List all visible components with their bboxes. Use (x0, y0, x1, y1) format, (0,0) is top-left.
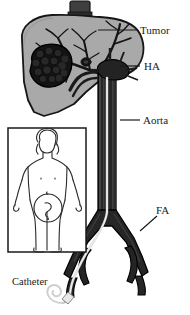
patient-inset (8, 128, 86, 252)
figure-canvas: Tumor HA Aorta FA Catheter (0, 0, 190, 315)
leader-line-fa (140, 216, 157, 231)
label-ha: HA (144, 60, 160, 72)
label-tumor: Tumor (140, 24, 170, 36)
label-aorta: Aorta (143, 114, 168, 126)
label-catheter: Catheter (12, 276, 48, 287)
vena-cava-stub (68, 1, 92, 16)
tumor-mass (30, 44, 72, 87)
label-fa: FA (156, 204, 169, 216)
medical-diagram: Tumor HA Aorta FA Catheter (0, 0, 190, 315)
